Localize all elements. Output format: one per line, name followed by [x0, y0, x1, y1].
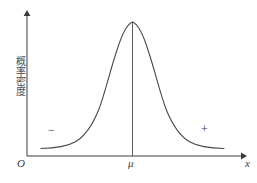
normal-distribution-figure: 概率密度 O x μ − + — [0, 0, 257, 183]
mu-tick-label: μ — [128, 158, 134, 169]
origin-label: O — [17, 158, 25, 169]
minus-sign-annotation: − — [48, 124, 55, 136]
y-axis-label: 概率密度 — [11, 56, 25, 96]
x-axis-label: x — [245, 158, 250, 169]
plot-canvas — [0, 0, 257, 183]
y-axis-arrowhead — [24, 10, 31, 16]
plus-sign-annotation: + — [201, 123, 208, 135]
